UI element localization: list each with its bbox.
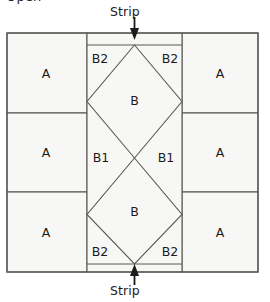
label-a-bottom-right: A bbox=[216, 225, 225, 240]
label-a-mid-right: A bbox=[216, 145, 225, 160]
label-b1-right: B1 bbox=[158, 150, 175, 165]
quilt-block-diagram: A A A A A A B B B2 B2 B2 B2 B1 B1 bbox=[0, 0, 270, 302]
label-b2-top-right: B2 bbox=[162, 51, 179, 66]
label-b2-top-left: B2 bbox=[92, 51, 109, 66]
label-a-bottom-left: A bbox=[42, 225, 51, 240]
label-a-top-left: A bbox=[42, 66, 51, 81]
label-b-upper: B bbox=[130, 93, 139, 108]
label-b1-left: B1 bbox=[93, 150, 110, 165]
label-b2-bottom-right: B2 bbox=[162, 244, 179, 259]
label-a-mid-left: A bbox=[42, 145, 51, 160]
label-b2-bottom-left: B2 bbox=[92, 244, 109, 259]
label-a-top-right: A bbox=[216, 66, 225, 81]
figure-canvas: Open Strip Strip A A A A A A B B bbox=[0, 0, 270, 302]
label-b-lower: B bbox=[130, 204, 139, 219]
